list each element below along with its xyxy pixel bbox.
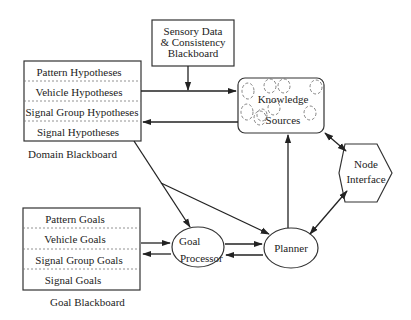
goal-processor-line-1: Goal [179, 235, 200, 247]
goal-processor: Goal Processor [172, 227, 224, 267]
node-interface: Node Interface [339, 144, 392, 202]
architecture-diagram: Sensory Data & Consistency Blackboard Pa… [0, 0, 411, 320]
domain-level-vehicle: Vehicle Hypotheses [35, 86, 122, 98]
domain-blackboard: Pattern Hypotheses Vehicle Hypotheses Si… [24, 61, 141, 160]
goal-blackboard: Pattern Goals Vehicle Goals Signal Group… [23, 208, 140, 308]
knowledge-sources-line-1: Knowledge [258, 93, 309, 105]
domain-level-signal: Signal Hypotheses [37, 126, 119, 138]
domain-level-pattern: Pattern Hypotheses [36, 66, 121, 78]
node-interface-line-1: Node [354, 158, 378, 170]
planner-label: Planner [274, 242, 308, 254]
goal-level-signal: Signal Goals [45, 274, 102, 286]
knowledge-sources: Knowledge Sources [238, 78, 324, 133]
sensory-data-blackboard: Sensory Data & Consistency Blackboard [152, 20, 234, 66]
goal-level-vehicle: Vehicle Goals [44, 233, 105, 245]
goal-level-signal-group: Signal Group Goals [35, 254, 122, 266]
goal-level-pattern: Pattern Goals [45, 213, 105, 225]
goal-processor-line-2: Processor [180, 252, 223, 264]
domain-level-signal-group: Signal Group Hypotheses [25, 106, 138, 118]
sensory-line-3: Blackboard [168, 47, 219, 59]
planner: Planner [264, 228, 318, 268]
knowledge-sources-line-2: Sources [266, 114, 301, 126]
goal-blackboard-label: Goal Blackboard [50, 296, 125, 308]
domain-blackboard-label: Domain Blackboard [28, 148, 117, 160]
node-interface-line-2: Interface [346, 173, 385, 185]
